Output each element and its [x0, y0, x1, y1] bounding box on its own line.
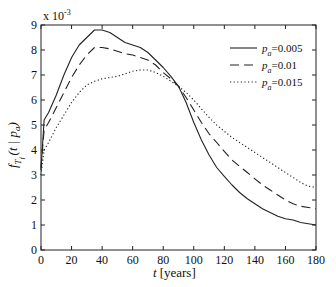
y-multiplier: x 10-3 — [43, 8, 71, 23]
y-tick-label: 5 — [31, 118, 37, 132]
x-tick-label: 140 — [246, 253, 264, 267]
x-tick-label: 0 — [38, 253, 44, 267]
legend-label: pa=0.005 — [261, 42, 303, 58]
y-tick-label: 2 — [31, 193, 37, 207]
x-tick-label: 180 — [307, 253, 325, 267]
legend-label: pa=0.01 — [261, 59, 297, 75]
x-tick-label: 60 — [127, 253, 139, 267]
y-tick-label: 7 — [31, 68, 37, 82]
y-tick-label: 8 — [31, 43, 37, 57]
line-chart: 020406080100120140160180 0123456789 x 10… — [0, 0, 336, 287]
legend: pa=0.005pa=0.01pa=0.015 — [230, 42, 303, 92]
x-tick-label: 20 — [66, 253, 78, 267]
series-line-dashed — [41, 48, 316, 209]
y-tick-label: 3 — [31, 168, 37, 182]
x-tick-label: 120 — [215, 253, 233, 267]
y-tick-label: 0 — [31, 243, 37, 257]
y-tick-labels: 0123456789 — [31, 18, 37, 257]
x-tick-label: 40 — [96, 253, 108, 267]
legend-label: pa=0.015 — [261, 76, 303, 92]
y-tick-label: 9 — [31, 18, 37, 32]
y-axis-label: fTf(t | pa) — [5, 122, 26, 168]
svg-text:fTf(t | pa): fTf(t | pa) — [5, 122, 26, 168]
y-tick-label: 1 — [31, 218, 37, 232]
y-tick-label: 4 — [31, 143, 37, 157]
y-tick-label: 6 — [31, 93, 37, 107]
x-tick-label: 160 — [276, 253, 294, 267]
x-axis-label: t[years] — [153, 265, 196, 280]
